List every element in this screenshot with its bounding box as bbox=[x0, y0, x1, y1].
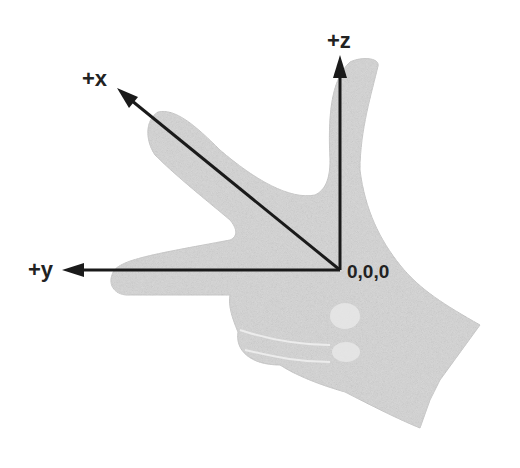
hand-illustration bbox=[111, 59, 480, 428]
z-arrowhead-icon bbox=[333, 55, 347, 78]
y-arrowhead-icon bbox=[62, 263, 84, 277]
y-axis-label: +y bbox=[28, 259, 53, 281]
origin-label: 0,0,0 bbox=[347, 262, 389, 281]
x-axis-label: +x bbox=[82, 68, 107, 90]
right-hand-diagram bbox=[0, 0, 520, 468]
z-axis-label: +z bbox=[327, 30, 351, 52]
